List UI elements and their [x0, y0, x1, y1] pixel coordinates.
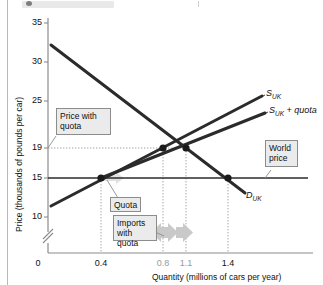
point-domestic-supply-quota-price [159, 144, 166, 151]
curve-label-suk-sub: UK [272, 93, 281, 100]
point-quota-equilibrium [182, 144, 189, 151]
y-tick-25: 25 [22, 95, 42, 105]
supply-plus-quota-curve [101, 113, 265, 178]
x-tick-0: 0 [30, 258, 46, 268]
imports-arrow-head-right-icon [176, 223, 193, 242]
point-suk-world-price [97, 174, 104, 181]
curve-label-duk: DUK [246, 190, 262, 202]
y-tick-10: 10 [22, 211, 42, 221]
y-tick-30: 30 [22, 56, 42, 66]
x-tick-1-4: 1.4 [217, 258, 239, 268]
figure-root: Price (thousands of pounds per car) 35 3… [0, 0, 323, 285]
callout-price-with-quota: Price with quota [56, 108, 111, 135]
y-tick-19: 19 [22, 142, 42, 152]
y-tick-15: 15 [22, 172, 42, 182]
x-tick-1-1: 1.1 [175, 258, 197, 268]
leader-price-with-quota [48, 136, 56, 148]
y-tick-35: 35 [22, 17, 42, 27]
curve-label-suk-quota-sub: UK [275, 110, 284, 117]
curve-label-suk-plus-quota: SUK + quota [269, 105, 317, 117]
curve-label-suk: SUK [266, 88, 281, 100]
callout-imports-with-quota: Imports with quota [113, 215, 157, 241]
callout-quota: Quota [110, 197, 141, 212]
callout-world-price: World price [265, 140, 298, 167]
curve-label-duk-sub: UK [253, 195, 262, 202]
x-tick-0-4: 0.4 [90, 258, 112, 268]
curve-label-suk-quota-tail: + quota [284, 105, 317, 115]
x-axis-title: Quantity (millions of cars per year) [152, 272, 281, 282]
point-duk-world-price [224, 174, 231, 181]
x-tick-0-8: 0.8 [152, 258, 174, 268]
leader-world-price [265, 170, 271, 178]
